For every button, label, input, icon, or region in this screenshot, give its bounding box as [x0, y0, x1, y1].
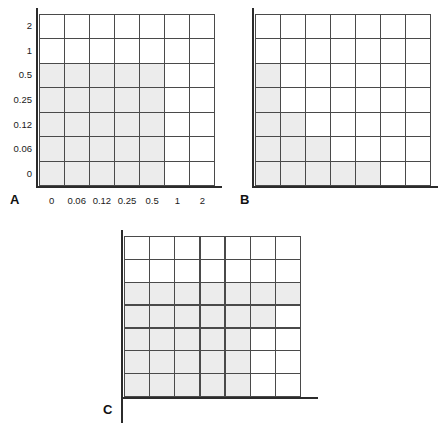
x-tick-label: 0.12: [93, 196, 112, 206]
cell: [140, 162, 164, 185]
cell: [251, 329, 275, 351]
x-tick-label: 0: [49, 196, 54, 206]
panel-b-grid: [255, 14, 431, 186]
cell: [331, 88, 355, 111]
cell: [115, 39, 139, 62]
cell: [226, 283, 250, 305]
cell: [125, 351, 149, 373]
cell: [165, 137, 189, 160]
cell: [251, 374, 275, 396]
y-tick-label: 1: [27, 46, 32, 56]
cell: [281, 15, 305, 38]
cell: [175, 374, 199, 396]
cell: [115, 15, 139, 38]
cell: [406, 39, 430, 62]
cell: [165, 64, 189, 87]
cell: [226, 237, 250, 259]
cell: [276, 306, 300, 328]
y-tick-label: 0.25: [14, 95, 33, 105]
cell: [40, 15, 64, 38]
panel-letter-c: C: [103, 403, 112, 416]
cell: [190, 88, 214, 111]
cell: [190, 64, 214, 87]
cell: [40, 162, 64, 185]
panel-c-x-axis: [121, 397, 318, 399]
y-tick-label: 0.06: [14, 144, 33, 154]
panel-a-grid-area: [39, 14, 215, 186]
cell: [90, 64, 114, 87]
cell: [226, 260, 250, 282]
cell: [175, 329, 199, 351]
panel-letter-a: A: [10, 193, 19, 206]
cell: [150, 237, 174, 259]
cell: [276, 260, 300, 282]
cell: [306, 64, 330, 87]
cell: [306, 162, 330, 185]
cell: [381, 137, 405, 160]
cell: [190, 39, 214, 62]
y-tick-label: 0.12: [14, 120, 33, 130]
cell: [226, 374, 250, 396]
cell: [226, 351, 250, 373]
cell: [306, 88, 330, 111]
cell: [276, 351, 300, 373]
cell: [140, 15, 164, 38]
cell: [256, 88, 280, 111]
cell: [306, 113, 330, 136]
cell: [201, 329, 225, 351]
cell: [65, 88, 89, 111]
cell: [406, 137, 430, 160]
cell: [381, 39, 405, 62]
cell: [306, 15, 330, 38]
cell: [331, 15, 355, 38]
cell: [115, 113, 139, 136]
cell: [406, 15, 430, 38]
cell: [125, 260, 149, 282]
cell: [281, 64, 305, 87]
cell: [331, 137, 355, 160]
cell: [150, 351, 174, 373]
cell: [115, 88, 139, 111]
cell: [175, 237, 199, 259]
cell: [281, 113, 305, 136]
panel-c: C: [100, 225, 330, 424]
cell: [125, 329, 149, 351]
cell: [276, 329, 300, 351]
cell: [190, 15, 214, 38]
cell: [150, 374, 174, 396]
cell: [65, 113, 89, 136]
cell: [175, 283, 199, 305]
cell: [175, 260, 199, 282]
cell: [356, 137, 380, 160]
cell: [331, 39, 355, 62]
y-tick-label: 2: [27, 22, 32, 32]
panel-a-x-axis: [36, 186, 222, 188]
cell: [306, 137, 330, 160]
cell: [65, 39, 89, 62]
cell: [356, 88, 380, 111]
cell: [226, 306, 250, 328]
cell: [406, 88, 430, 111]
cell: [40, 137, 64, 160]
cell: [281, 39, 305, 62]
cell: [201, 237, 225, 259]
cell: [406, 162, 430, 185]
cell: [381, 15, 405, 38]
cell: [125, 283, 149, 305]
cell: [331, 64, 355, 87]
panel-a: 2 1 0.5 0.25 0.12 0.06 0 0 0.06 0.12 0.2…: [0, 0, 232, 215]
cell: [165, 88, 189, 111]
cell: [251, 351, 275, 373]
cell: [165, 113, 189, 136]
cell: [281, 162, 305, 185]
cell: [140, 113, 164, 136]
cell: [140, 64, 164, 87]
cell: [201, 351, 225, 373]
panel-c-grid-area: [124, 236, 301, 397]
cell: [125, 306, 149, 328]
cell: [40, 39, 64, 62]
cell: [256, 39, 280, 62]
cell: [65, 64, 89, 87]
cell: [90, 88, 114, 111]
cell: [201, 283, 225, 305]
